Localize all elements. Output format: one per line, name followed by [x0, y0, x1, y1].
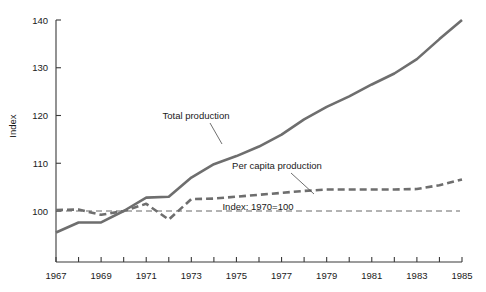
x-tick-label: 1981 [361, 270, 382, 281]
chart-container: 100110120130140 196719691971197319751977… [0, 0, 486, 292]
y-tick-label: 140 [32, 15, 48, 26]
total-production-label: Total production [162, 110, 229, 121]
index-baseline-note: Index: 1970=100 [222, 201, 293, 212]
y-axis: 100110120130140 [32, 15, 61, 263]
index-line-chart: 100110120130140 196719691971197319751977… [0, 0, 486, 292]
x-tick-label: 1969 [91, 270, 112, 281]
y-tick-group: 100110120130140 [32, 15, 61, 217]
x-tick-label: 1977 [271, 270, 292, 281]
x-tick-label: 1979 [316, 270, 337, 281]
x-axis: 1967196919711973197519771979198119831985 [45, 257, 472, 281]
y-axis-title: Index [7, 114, 18, 137]
x-tick-label: 1983 [406, 270, 427, 281]
x-tick-group: 1967196919711973197519771979198119831985 [45, 257, 472, 281]
y-tick-label: 130 [32, 62, 48, 73]
x-tick-label: 1971 [136, 270, 157, 281]
x-tick-label: 1975 [226, 270, 247, 281]
y-tick-label: 110 [33, 158, 48, 169]
total-production-label-leader [210, 123, 222, 144]
x-tick-label: 1985 [451, 270, 472, 281]
per-capita-production-label: Per capita production [232, 160, 322, 171]
x-tick-label: 1967 [45, 270, 66, 281]
x-tick-label: 1973 [181, 270, 202, 281]
y-tick-label: 120 [32, 110, 48, 121]
y-tick-label: 100 [32, 206, 48, 217]
